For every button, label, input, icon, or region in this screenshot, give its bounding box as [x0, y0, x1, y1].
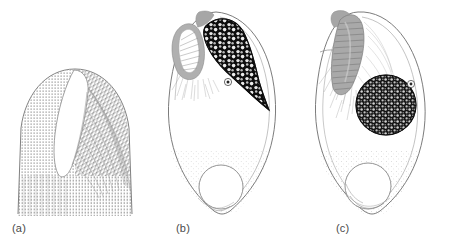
panel-c-drawing [300, 0, 454, 246]
panel-label-b: (b) [176, 222, 190, 234]
panel-label-a: (a) [12, 222, 26, 234]
panel-c: (c) [300, 0, 454, 246]
panel-a-drawing [0, 0, 150, 246]
figure-panel-group: (a) [0, 0, 454, 246]
panel-label-c: (c) [336, 222, 349, 234]
panel-a: (a) [0, 0, 150, 246]
panel-b-drawing [150, 0, 300, 246]
nucleolus-pore-center [410, 83, 413, 86]
nucleolus-pore-center [227, 81, 230, 84]
panel-b: (b) [150, 0, 300, 246]
basal-vacuole [199, 165, 243, 209]
